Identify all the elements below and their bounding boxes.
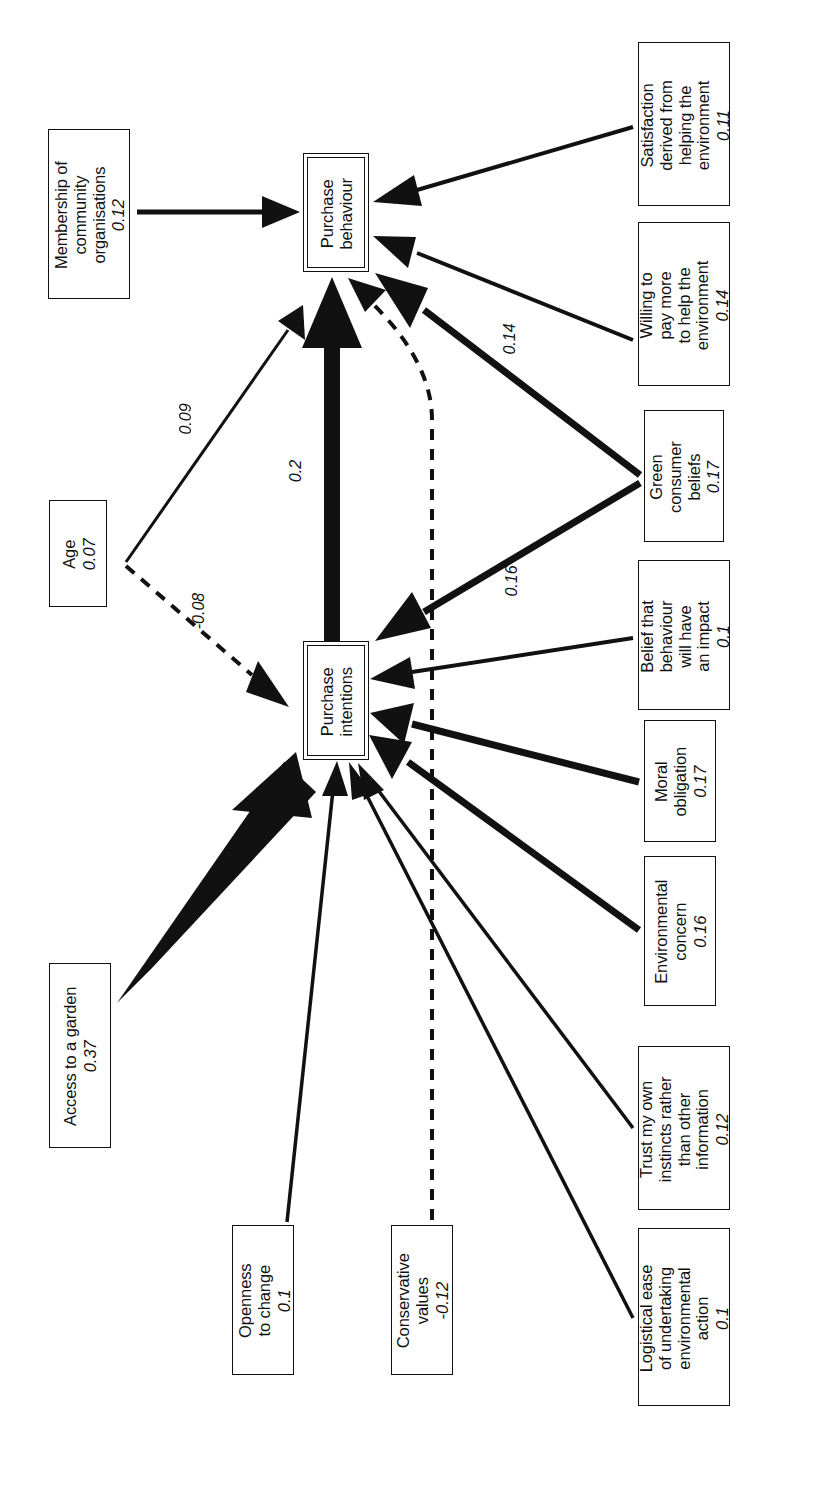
node-trust-my-own-instincts[interactable]: Trust my own instincts rather than other… <box>638 1046 730 1210</box>
node-coefficient: 0.17 <box>704 441 723 513</box>
edge-label-minus-0-08: -0.08 <box>190 586 208 636</box>
node-label-line: Access to a garden <box>62 987 81 1126</box>
node-label-line: Willing to <box>638 260 657 350</box>
edge-label-0-16: 0.16 <box>503 559 521 603</box>
node-label-line: Conservative <box>394 1253 413 1348</box>
node-label-line: Membership of <box>52 161 71 269</box>
node-label-line: intentions <box>337 667 356 737</box>
node-label-line: environment <box>694 80 713 171</box>
node-label-line: action <box>694 1264 713 1372</box>
node-label-line: consumer <box>666 441 685 513</box>
node-coefficient: 0.14 <box>714 260 733 350</box>
edge-membership-to-behaviour <box>137 196 300 228</box>
node-label-line: information <box>694 1076 713 1182</box>
node-label-line: beliefs <box>685 441 704 513</box>
node-access-to-a-garden[interactable]: Access to a garden 0.37 <box>49 963 111 1148</box>
node-coefficient: 0.1 <box>714 1264 733 1372</box>
node-coefficient: -0.12 <box>433 1253 452 1348</box>
edge-green-to-behaviour <box>375 273 640 475</box>
node-label-line: Environmental <box>652 880 671 984</box>
node-label-line: pay more <box>656 260 675 350</box>
node-purchase-intentions[interactable]: Purchase intentions <box>303 641 369 760</box>
node-label-line: to change <box>254 1264 273 1338</box>
node-age[interactable]: Age 0.07 <box>49 500 107 607</box>
edge-belief-to-intentions <box>370 638 633 689</box>
node-label-line: derived from <box>656 80 675 171</box>
edges-layer <box>117 127 640 1318</box>
node-membership-community-organisations[interactable]: Membership of community organisations 0.… <box>48 129 130 299</box>
node-label-line: Belief that <box>638 600 657 672</box>
node-conservative-values[interactable]: Conservative values -0.12 <box>391 1225 453 1375</box>
node-label-line: values <box>413 1253 432 1348</box>
edge-satisfaction-to-behaviour <box>373 127 633 206</box>
node-label-line: than other <box>675 1076 694 1182</box>
node-label-line: behaviour <box>337 178 356 250</box>
node-openness-to-change[interactable]: Openness to change 0.1 <box>232 1225 294 1375</box>
node-label-line: community <box>71 161 90 269</box>
node-coefficient: 0.07 <box>80 538 99 570</box>
node-belief-that-behaviour-will-have-an-impact[interactable]: Belief that behaviour will have an impac… <box>638 560 730 710</box>
edge-label-0-09: 0.09 <box>177 399 195 439</box>
node-coefficient: 0.12 <box>714 1076 733 1182</box>
node-coefficient: 0.37 <box>82 987 101 1126</box>
node-coefficient: 0.1 <box>714 600 733 672</box>
node-coefficient: 0.16 <box>691 880 710 984</box>
node-label-line: behaviour <box>656 600 675 672</box>
edge-openness-to-intentions <box>287 761 348 1222</box>
node-moral-obligation[interactable]: Moral obligation 0.17 <box>644 720 716 842</box>
node-label-line: helping the <box>675 80 694 171</box>
node-green-consumer-beliefs[interactable]: Green consumer beliefs 0.17 <box>644 410 724 542</box>
node-satisfaction-derived-from-helping-the-environment[interactable]: Satisfaction derived from helping the en… <box>638 42 730 206</box>
edge-intentions-to-behaviour <box>302 277 362 641</box>
edge-age-to-behaviour <box>126 305 305 562</box>
node-purchase-behaviour[interactable]: Purchase behaviour <box>303 153 369 272</box>
node-label-line: Age <box>60 538 79 570</box>
node-coefficient: 0.12 <box>109 161 128 269</box>
node-label-line: Green <box>647 441 666 513</box>
edge-garden-to-intentions <box>117 752 316 1003</box>
node-label-line: Purchase <box>318 667 337 737</box>
node-label-line: Logistical ease <box>638 1264 657 1372</box>
node-coefficient: 0.17 <box>691 747 710 817</box>
node-label-line: to help the <box>675 260 694 350</box>
node-coefficient: 0.11 <box>714 80 733 171</box>
node-label-line: Moral <box>652 747 671 817</box>
node-label-line: concern <box>671 880 690 984</box>
node-label-line: organisations <box>90 161 109 269</box>
node-label-line: of undertaking <box>656 1264 675 1372</box>
node-label-line: environment <box>694 260 713 350</box>
path-diagram-canvas: Purchase behaviour Purchase intentions M… <box>0 0 820 1488</box>
node-environmental-concern[interactable]: Environmental concern 0.16 <box>644 856 716 1006</box>
edge-label-0-2: 0.2 <box>287 451 305 491</box>
node-label-line: an impact <box>694 600 713 672</box>
node-label-line: environmental <box>675 1264 694 1372</box>
node-label-line: will have <box>675 600 694 672</box>
node-label-line: Purchase <box>318 178 337 250</box>
node-label-line: Satisfaction <box>638 80 657 171</box>
node-label-line: obligation <box>671 747 690 817</box>
edge-label-0-14: 0.14 <box>501 317 519 361</box>
node-logistical-ease-of-undertaking-environmental-action[interactable]: Logistical ease of undertaking environme… <box>638 1228 730 1406</box>
node-label-line: instincts rather <box>656 1076 675 1182</box>
node-label-line: Openness <box>235 1264 254 1338</box>
node-coefficient: 0.1 <box>274 1264 293 1338</box>
node-label-line: Trust my own <box>638 1076 657 1182</box>
node-willing-to-pay-more-to-help-the-environment[interactable]: Willing to pay more to help the environm… <box>638 222 730 386</box>
edge-trust-to-intentions <box>358 763 633 1128</box>
